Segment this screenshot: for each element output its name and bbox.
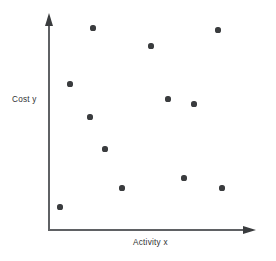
data-point xyxy=(67,81,72,86)
data-point xyxy=(87,114,92,119)
data-point xyxy=(219,185,224,190)
data-point xyxy=(90,25,95,30)
data-point xyxy=(215,27,220,32)
data-point xyxy=(57,204,62,209)
data-point xyxy=(181,175,186,180)
plot-points-layer xyxy=(0,0,276,261)
data-point xyxy=(191,101,196,106)
data-point xyxy=(119,185,124,190)
data-point xyxy=(148,43,153,48)
data-point xyxy=(102,146,107,151)
scatter-plot-figure: Cost y Activity x xyxy=(0,0,276,261)
data-point xyxy=(165,96,170,101)
